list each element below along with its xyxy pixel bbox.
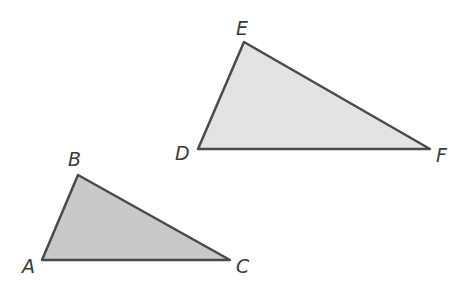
vertex-label-d: D — [175, 142, 190, 164]
vertex-label-e: E — [236, 17, 248, 39]
triangle-def — [198, 42, 430, 149]
diagram-canvas: A B C D E F — [0, 0, 468, 293]
vertex-label-f: F — [436, 144, 448, 166]
vertex-label-c: C — [236, 255, 250, 277]
triangle-abc — [42, 175, 230, 260]
triangles-figure: A B C D E F — [0, 0, 468, 293]
vertex-label-a: A — [20, 255, 35, 277]
vertex-label-b: B — [68, 148, 81, 170]
